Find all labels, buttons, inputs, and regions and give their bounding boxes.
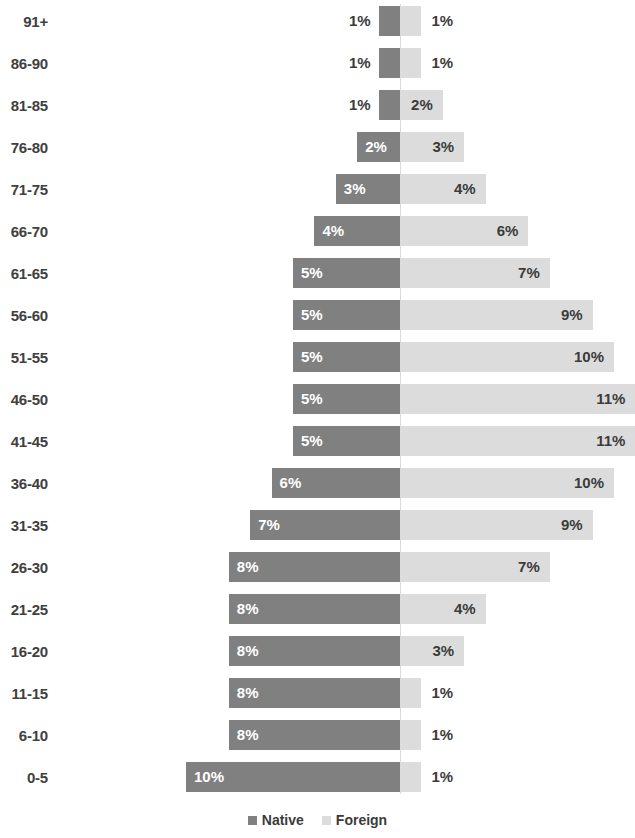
row-bars: 5%11% <box>0 420 635 462</box>
foreign-value-label: 9% <box>400 510 583 540</box>
foreign-value-label: 2% <box>400 90 433 120</box>
foreign-value-label: 1% <box>431 720 471 750</box>
foreign-bar <box>400 6 421 36</box>
native-value-label: 1% <box>335 6 371 36</box>
foreign-bar <box>400 48 421 78</box>
foreign-value-label: 1% <box>431 762 471 792</box>
row-bars: 4%6% <box>0 210 635 252</box>
chart-row: 11-158%1% <box>0 672 635 714</box>
row-bars: 5%9% <box>0 294 635 336</box>
legend-item-native[interactable]: Native <box>248 812 304 828</box>
chart-row: 86-901%1% <box>0 42 635 84</box>
foreign-value-label: 9% <box>400 300 583 330</box>
chart-row: 81-851%2% <box>0 84 635 126</box>
chart-row: 46-505%11% <box>0 378 635 420</box>
native-bar <box>379 90 400 120</box>
native-value-label: 2% <box>365 132 398 162</box>
chart-row: 16-208%3% <box>0 630 635 672</box>
foreign-value-label: 11% <box>400 384 625 414</box>
foreign-value-label: 4% <box>400 594 476 624</box>
chart-row: 31-357%9% <box>0 504 635 546</box>
row-bars: 8%7% <box>0 546 635 588</box>
foreign-value-label: 1% <box>431 678 471 708</box>
square-swatch-icon <box>322 816 331 825</box>
legend-label: Foreign <box>336 812 387 828</box>
native-value-label: 8% <box>237 636 398 666</box>
foreign-value-label: 6% <box>400 216 518 246</box>
native-value-label: 1% <box>335 48 371 78</box>
native-value-label: 4% <box>322 216 398 246</box>
square-swatch-icon <box>248 816 257 825</box>
chart-row: 66-704%6% <box>0 210 635 252</box>
plot-area: 91+1%1%86-901%1%81-851%2%76-802%3%71-753… <box>0 0 635 790</box>
foreign-value-label: 10% <box>400 468 604 498</box>
foreign-value-label: 1% <box>431 48 471 78</box>
chart-row: 61-655%7% <box>0 252 635 294</box>
row-bars: 5%11% <box>0 378 635 420</box>
native-value-label: 3% <box>344 174 398 204</box>
chart-row: 26-308%7% <box>0 546 635 588</box>
row-bars: 1%1% <box>0 0 635 42</box>
native-bar <box>379 6 400 36</box>
row-bars: 8%4% <box>0 588 635 630</box>
native-value-label: 5% <box>301 300 398 330</box>
chart-row: 91+1%1% <box>0 0 635 42</box>
row-bars: 5%7% <box>0 252 635 294</box>
native-value-label: 8% <box>237 720 398 750</box>
native-value-label: 6% <box>280 468 398 498</box>
row-bars: 8%1% <box>0 672 635 714</box>
chart-row: 6-108%1% <box>0 714 635 756</box>
native-value-label: 1% <box>335 90 371 120</box>
foreign-value-label: 1% <box>431 6 471 36</box>
chart-row: 0-510%1% <box>0 756 635 798</box>
row-bars: 8%3% <box>0 630 635 672</box>
row-bars: 10%1% <box>0 756 635 798</box>
chart-row: 71-753%4% <box>0 168 635 210</box>
foreign-value-label: 11% <box>400 426 625 456</box>
chart-row: 76-802%3% <box>0 126 635 168</box>
foreign-value-label: 3% <box>400 132 454 162</box>
foreign-value-label: 7% <box>400 258 540 288</box>
foreign-value-label: 4% <box>400 174 476 204</box>
row-bars: 8%1% <box>0 714 635 756</box>
row-bars: 6%10% <box>0 462 635 504</box>
native-value-label: 7% <box>258 510 398 540</box>
row-bars: 5%10% <box>0 336 635 378</box>
native-value-label: 8% <box>237 594 398 624</box>
row-bars: 2%3% <box>0 126 635 168</box>
native-value-label: 5% <box>301 258 398 288</box>
row-bars: 1%2% <box>0 84 635 126</box>
native-value-label: 5% <box>301 426 398 456</box>
chart-legend: NativeForeign <box>0 812 635 828</box>
chart-row: 56-605%9% <box>0 294 635 336</box>
chart-row: 41-455%11% <box>0 420 635 462</box>
legend-label: Native <box>262 812 304 828</box>
chart-row: 51-555%10% <box>0 336 635 378</box>
population-pyramid-chart: 91+1%1%86-901%1%81-851%2%76-802%3%71-753… <box>0 0 635 838</box>
foreign-bar <box>400 678 421 708</box>
row-bars: 1%1% <box>0 42 635 84</box>
native-value-label: 10% <box>194 762 398 792</box>
foreign-value-label: 10% <box>400 342 604 372</box>
foreign-bar <box>400 720 421 750</box>
chart-row: 21-258%4% <box>0 588 635 630</box>
row-bars: 3%4% <box>0 168 635 210</box>
foreign-value-label: 3% <box>400 636 454 666</box>
native-value-label: 8% <box>237 552 398 582</box>
foreign-value-label: 7% <box>400 552 540 582</box>
native-bar <box>379 48 400 78</box>
row-bars: 7%9% <box>0 504 635 546</box>
native-value-label: 5% <box>301 342 398 372</box>
native-value-label: 5% <box>301 384 398 414</box>
native-value-label: 8% <box>237 678 398 708</box>
legend-item-foreign[interactable]: Foreign <box>322 812 387 828</box>
chart-row: 36-406%10% <box>0 462 635 504</box>
foreign-bar <box>400 762 421 792</box>
